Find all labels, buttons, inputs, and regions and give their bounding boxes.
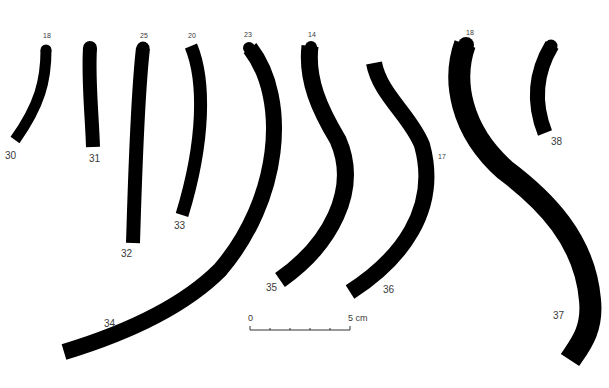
top-value-33: 20 — [188, 32, 196, 39]
label-34: 34 — [104, 318, 115, 329]
artifact-33-shape — [182, 46, 201, 215]
top-value-32: 25 — [140, 32, 148, 39]
artifact-30-shape — [15, 50, 46, 140]
tip-34 — [243, 42, 255, 54]
tip-30 — [41, 45, 52, 56]
tip-35 — [305, 41, 317, 53]
top-value-30: 18 — [43, 32, 51, 39]
tip-38 — [545, 40, 558, 53]
side-value-17: 17 — [438, 153, 446, 160]
artifact-plate — [0, 0, 609, 388]
tip-32 — [137, 42, 150, 55]
scale-bar — [250, 326, 350, 330]
scale-start-label: 0 — [248, 313, 253, 323]
artifact-32-shape — [133, 48, 143, 243]
artifact-35-shape — [280, 46, 345, 280]
top-value-35: 14 — [308, 31, 316, 38]
top-value-37: 18 — [466, 29, 474, 36]
tip-37 — [458, 37, 474, 53]
label-38: 38 — [551, 136, 562, 147]
label-32: 32 — [121, 248, 132, 259]
artifact-38-shape — [537, 45, 552, 133]
artifact-31-shape — [89, 48, 93, 147]
scale-end-label: 5 cm — [348, 313, 368, 323]
label-36: 36 — [383, 284, 394, 295]
artifact-36-shape — [350, 63, 426, 292]
label-30: 30 — [5, 150, 16, 161]
label-31: 31 — [89, 153, 100, 164]
label-35: 35 — [266, 282, 277, 293]
tip-31 — [83, 41, 97, 55]
top-value-34: 23 — [244, 31, 252, 38]
label-33: 33 — [174, 220, 185, 231]
artifact-37-shape — [459, 44, 590, 360]
label-37: 37 — [553, 310, 564, 321]
